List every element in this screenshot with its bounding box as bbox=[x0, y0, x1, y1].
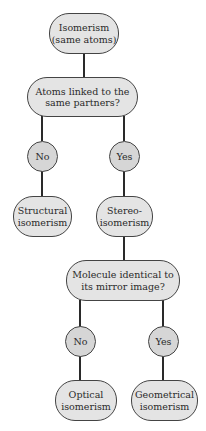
node-label: Molecule identical to its mirror image? bbox=[72, 269, 174, 292]
node-root-isomerism: Isomerism (same atoms) bbox=[49, 13, 119, 54]
node-geometrical-isomerism: Geometrical isomerism bbox=[131, 380, 198, 421]
connector-yes-stereo bbox=[123, 171, 125, 197]
node-question-same-partners: Atoms linked to the same partners? bbox=[27, 77, 138, 117]
connector-q1-yes bbox=[123, 116, 125, 141]
node-label: Stereo- isomerism bbox=[100, 205, 150, 228]
node-structural-isomerism: Structural isomerism bbox=[13, 196, 72, 237]
node-question-mirror-image: Molecule identical to its mirror image? bbox=[66, 260, 180, 301]
node-answer-no-2: No bbox=[65, 326, 96, 357]
node-label: Yes bbox=[117, 151, 133, 163]
connector-q1-no bbox=[41, 116, 43, 141]
node-answer-yes-1: Yes bbox=[109, 141, 140, 172]
node-answer-no-1: No bbox=[27, 141, 58, 172]
node-label: Geometrical isomerism bbox=[135, 389, 194, 412]
connector-yes-geometrical bbox=[162, 356, 164, 381]
connector-q2-no bbox=[79, 300, 81, 327]
node-answer-yes-2: Yes bbox=[148, 326, 179, 357]
node-label: No bbox=[73, 336, 87, 348]
node-label: Isomerism (same atoms) bbox=[52, 22, 117, 45]
connector-no-optical bbox=[79, 356, 81, 381]
node-label: Atoms linked to the same partners? bbox=[36, 86, 130, 109]
node-label: Structural isomerism bbox=[18, 205, 68, 228]
node-stereo-isomerism: Stereo- isomerism bbox=[96, 196, 153, 237]
node-label: Optical isomerism bbox=[61, 389, 111, 412]
connector-root-q1 bbox=[83, 53, 85, 77]
connector-no-structural bbox=[41, 171, 43, 197]
node-label: No bbox=[35, 151, 49, 163]
node-optical-isomerism: Optical isomerism bbox=[55, 380, 117, 421]
connector-stereo-q2 bbox=[123, 236, 125, 261]
node-label: Yes bbox=[156, 336, 172, 348]
connector-q2-yes bbox=[162, 300, 164, 327]
